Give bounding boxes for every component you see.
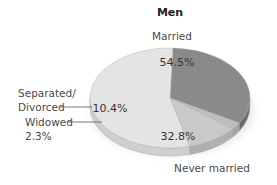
label-never-married: Never married xyxy=(174,162,250,174)
label-widowed-line1: Widowed xyxy=(25,116,73,128)
pie-chart: Men Married 54.5% 10.4% 32.8% Separated/… xyxy=(0,0,277,185)
pct-never-married: 32.8% xyxy=(161,130,196,143)
chart-title: Men xyxy=(157,6,183,19)
label-widowed-value: 2.3% xyxy=(25,130,52,142)
label-separated-line1: Separated/ xyxy=(18,87,76,99)
label-married: Married xyxy=(152,30,192,42)
label-separated-line2: Divorced xyxy=(18,101,65,113)
pct-married: 54.5% xyxy=(160,56,195,69)
pct-separated: 10.4% xyxy=(93,102,128,115)
